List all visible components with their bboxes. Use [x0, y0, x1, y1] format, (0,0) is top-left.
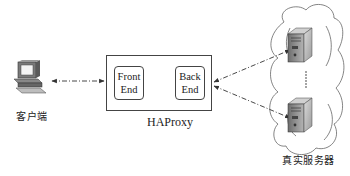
client-label: 客户端 — [16, 108, 48, 123]
haproxy-box: Front End Back End — [106, 55, 212, 111]
backend-server1-link — [214, 50, 290, 82]
desktop-computer-icon — [14, 60, 46, 93]
server-tower-icon — [288, 28, 312, 62]
server-cloud — [270, 4, 344, 154]
backend-label-line2: End — [182, 83, 199, 96]
backend-box: Back End — [175, 66, 205, 100]
server-ellipsis — [305, 71, 307, 88]
frontend-box: Front End — [114, 66, 144, 100]
server-tower-icon — [288, 98, 312, 132]
servers-label: 真实服务器 — [282, 152, 335, 167]
frontend-label-line2: End — [121, 83, 138, 96]
frontend-label-line1: Front — [118, 70, 141, 83]
backend-server2-link — [214, 86, 290, 118]
haproxy-label: HAProxy — [147, 115, 193, 130]
backend-label-line1: Back — [179, 70, 201, 83]
